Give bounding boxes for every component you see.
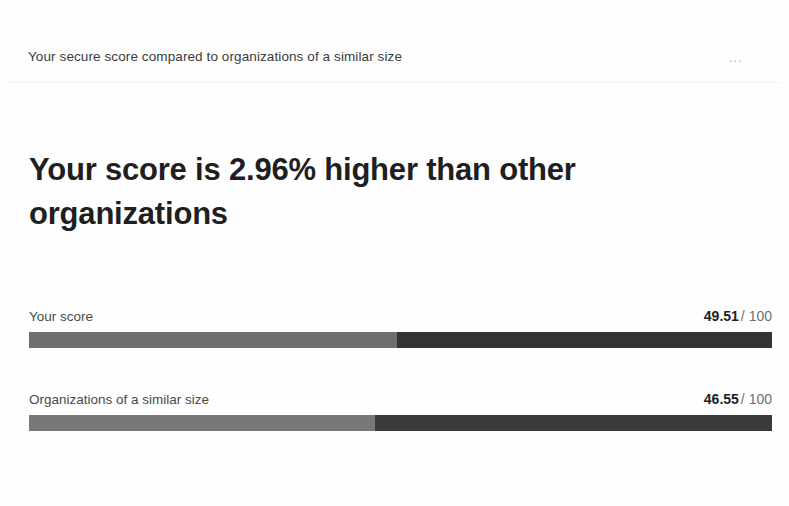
overflow-menu-icon[interactable]: … [721,43,751,69]
bar-value-group: 49.51/ 100 [704,308,772,324]
bar-value-number: 46.55 [704,391,739,407]
bar-fill-score [29,332,397,348]
score-bar-list: Your score 49.51/ 100 Organizations of a… [29,308,772,431]
card-header: Your secure score compared to organizati… [0,30,789,82]
header-divider [8,82,781,83]
bar-track [29,332,772,348]
score-bar-row-similar-orgs: Organizations of a similar size 46.55/ 1… [29,391,772,431]
bar-fill-remainder [397,332,772,348]
bar-label: Your score [29,309,93,324]
secure-score-comparison-card: Your secure score compared to organizati… [0,0,789,506]
bar-value-group: 46.55/ 100 [704,391,772,407]
bar-track [29,415,772,431]
bar-label: Organizations of a similar size [29,392,209,407]
bar-value-max: / 100 [741,391,772,407]
card-title: Your secure score compared to organizati… [28,49,402,64]
score-bar-row-your-score: Your score 49.51/ 100 [29,308,772,348]
bar-fill-remainder [375,415,772,431]
bar-fill-score [29,415,375,431]
bar-label-group: Your score 49.51/ 100 [29,308,772,324]
bar-value-max: / 100 [741,308,772,324]
bar-label-group: Organizations of a similar size 46.55/ 1… [29,391,772,407]
bar-value-number: 49.51 [704,308,739,324]
comparison-headline: Your score is 2.96% higher than other or… [29,148,629,236]
